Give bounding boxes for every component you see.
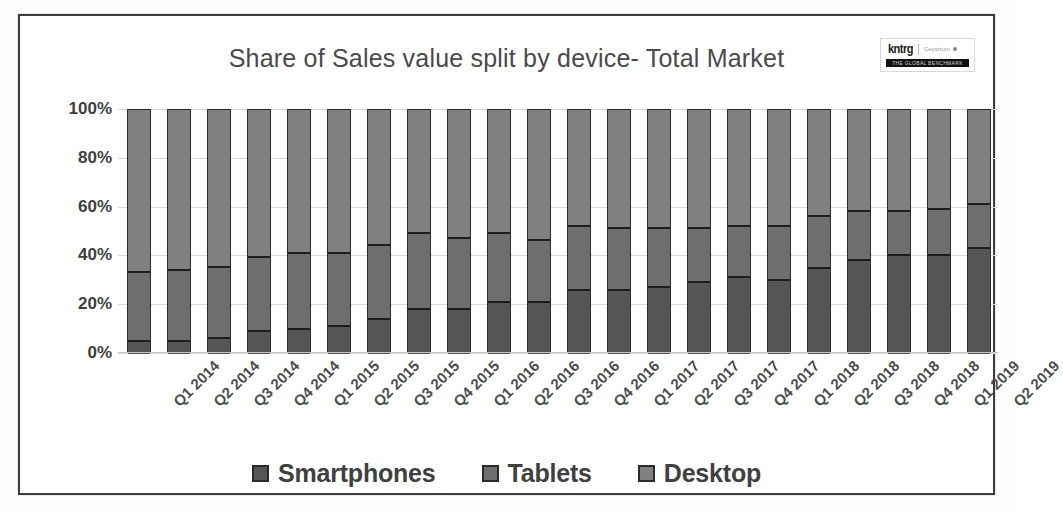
- stacked-bar[interactable]: [927, 109, 951, 353]
- bar-segment-tablets[interactable]: [888, 210, 910, 256]
- bar-segment-desktop[interactable]: [128, 110, 150, 271]
- bar-segment-desktop[interactable]: [168, 110, 190, 269]
- bar-segment-smartphones[interactable]: [568, 291, 590, 354]
- chart-title: Share of Sales value split by device- To…: [20, 44, 993, 73]
- bar-segment-tablets[interactable]: [728, 225, 750, 279]
- bar-segment-tablets[interactable]: [528, 239, 550, 302]
- stacked-bar[interactable]: [487, 109, 511, 353]
- stacked-bar[interactable]: [447, 109, 471, 353]
- bar-segment-desktop[interactable]: [768, 110, 790, 225]
- bar-segment-tablets[interactable]: [688, 227, 710, 283]
- stacked-bar[interactable]: [287, 109, 311, 353]
- bar-segment-tablets[interactable]: [288, 252, 310, 330]
- x-axis-labels: Q1 2014Q2 2014Q3 2014Q4 2014Q1 2015Q2 20…: [118, 357, 998, 452]
- bar-segment-smartphones[interactable]: [288, 330, 310, 354]
- stacked-bar[interactable]: [727, 109, 751, 353]
- stacked-bar[interactable]: [527, 109, 551, 353]
- y-axis-labels: 0%20%40%60%80%100%: [46, 109, 112, 353]
- bar-segment-desktop[interactable]: [408, 110, 430, 232]
- bar-segment-smartphones[interactable]: [968, 249, 990, 354]
- bar-segment-tablets[interactable]: [768, 225, 790, 281]
- bar-segment-desktop[interactable]: [288, 110, 310, 252]
- bar-segment-tablets[interactable]: [808, 215, 830, 269]
- bar-segment-tablets[interactable]: [488, 232, 510, 303]
- plot-area: [118, 109, 998, 353]
- bar-segment-tablets[interactable]: [648, 227, 670, 288]
- stacked-bar[interactable]: [967, 109, 991, 353]
- bar-segment-tablets[interactable]: [128, 271, 150, 342]
- stacked-bar[interactable]: [127, 109, 151, 353]
- bar-segment-smartphones[interactable]: [328, 327, 350, 354]
- bar-segment-smartphones[interactable]: [888, 256, 910, 354]
- bar-segment-smartphones[interactable]: [448, 310, 470, 354]
- logo-banner-text: THE GLOBAL BENCHMARK: [886, 59, 969, 67]
- bar-segment-desktop[interactable]: [208, 110, 230, 266]
- bar-segment-smartphones[interactable]: [768, 281, 790, 354]
- bar-segment-desktop[interactable]: [568, 110, 590, 225]
- bar-segment-tablets[interactable]: [848, 210, 870, 261]
- bar-segment-tablets[interactable]: [608, 227, 630, 290]
- stacked-bar[interactable]: [167, 109, 191, 353]
- bar-segment-desktop[interactable]: [888, 110, 910, 210]
- bar-segment-tablets[interactable]: [408, 232, 430, 310]
- bar-segment-tablets[interactable]: [928, 208, 950, 257]
- stacked-bar[interactable]: [607, 109, 631, 353]
- stacked-bar[interactable]: [247, 109, 271, 353]
- bar-segment-desktop[interactable]: [528, 110, 550, 239]
- bar-segment-smartphones[interactable]: [368, 320, 390, 354]
- bar-segment-smartphones[interactable]: [488, 303, 510, 354]
- bar-segment-smartphones[interactable]: [528, 303, 550, 354]
- stacked-bar[interactable]: [847, 109, 871, 353]
- bar-segment-tablets[interactable]: [168, 269, 190, 342]
- logo-wordmark: kntrg: [888, 43, 913, 55]
- bar-segment-desktop[interactable]: [848, 110, 870, 210]
- bar-segment-desktop[interactable]: [808, 110, 830, 215]
- legend-swatch-icon: [638, 465, 655, 482]
- bar-segment-smartphones[interactable]: [648, 288, 670, 354]
- bar-segment-desktop[interactable]: [608, 110, 630, 227]
- bar-segment-desktop[interactable]: [968, 110, 990, 203]
- stacked-bar[interactable]: [367, 109, 391, 353]
- bar-segment-smartphones[interactable]: [928, 256, 950, 354]
- bar-segment-smartphones[interactable]: [688, 283, 710, 354]
- x-axis-line: [118, 352, 998, 353]
- bar-segment-desktop[interactable]: [488, 110, 510, 232]
- bar-segment-tablets[interactable]: [208, 266, 230, 339]
- bar-segment-tablets[interactable]: [968, 203, 990, 249]
- stacked-bar[interactable]: [207, 109, 231, 353]
- bar-segment-smartphones[interactable]: [248, 332, 270, 354]
- bar-segment-tablets[interactable]: [448, 237, 470, 310]
- bar-segment-tablets[interactable]: [368, 244, 390, 320]
- stacked-bar[interactable]: [767, 109, 791, 353]
- legend-item[interactable]: Smartphones: [252, 459, 436, 488]
- bar-segment-smartphones[interactable]: [608, 291, 630, 354]
- bar-segment-tablets[interactable]: [248, 256, 270, 332]
- bar-segment-smartphones[interactable]: [848, 261, 870, 354]
- legend-item[interactable]: Desktop: [638, 459, 761, 488]
- bar-segment-desktop[interactable]: [688, 110, 710, 227]
- stacked-bar[interactable]: [887, 109, 911, 353]
- chart-frame: Share of Sales value split by device- To…: [18, 14, 995, 495]
- stacked-bar[interactable]: [807, 109, 831, 353]
- bar-segment-desktop[interactable]: [248, 110, 270, 256]
- stacked-bar[interactable]: [407, 109, 431, 353]
- logo-banner: THE GLOBAL BENCHMARK: [886, 59, 969, 67]
- logo-divider: [918, 44, 919, 55]
- stacked-bar[interactable]: [687, 109, 711, 353]
- stacked-bar[interactable]: [567, 109, 591, 353]
- bar-segment-desktop[interactable]: [328, 110, 350, 252]
- bar-segment-tablets[interactable]: [568, 225, 590, 291]
- bar-segment-desktop[interactable]: [728, 110, 750, 225]
- bar-segment-desktop[interactable]: [648, 110, 670, 227]
- stacked-bar[interactable]: [327, 109, 351, 353]
- bar-segment-smartphones[interactable]: [728, 278, 750, 354]
- stacked-bar[interactable]: [647, 109, 671, 353]
- bar-segment-desktop[interactable]: [448, 110, 470, 237]
- bar-segment-smartphones[interactable]: [808, 269, 830, 354]
- bar-segment-tablets[interactable]: [328, 252, 350, 328]
- bar-segment-smartphones[interactable]: [408, 310, 430, 354]
- legend-item[interactable]: Tablets: [482, 459, 592, 488]
- bar-segment-desktop[interactable]: [928, 110, 950, 208]
- bar-segment-desktop[interactable]: [368, 110, 390, 244]
